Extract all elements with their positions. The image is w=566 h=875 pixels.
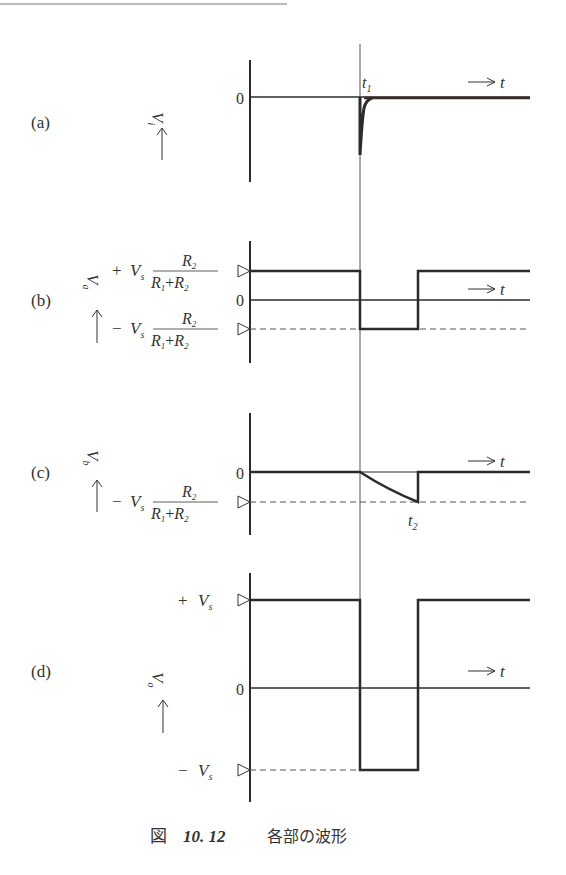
svg-text:Vi: Vi — [146, 112, 167, 125]
level-marker-icon — [238, 496, 250, 508]
svg-text:−: − — [112, 492, 122, 511]
panel-b-time-arrow: t — [468, 280, 506, 299]
svg-text:Vs: Vs — [130, 319, 144, 340]
panel-b-neg-level-label: − Vs R2 R1+R2 — [112, 310, 250, 351]
svg-text:R2: R2 — [181, 252, 197, 271]
svg-text:+: + — [178, 591, 188, 610]
panel-b: (b) Va + Vs R2 R1+R2 0 − Vs R2 R1+R2 — [31, 241, 530, 363]
svg-text:Va: Va — [81, 274, 102, 289]
panel-a-time-arrow: t — [468, 73, 506, 92]
svg-text:t: t — [500, 662, 506, 681]
level-marker-icon — [238, 764, 250, 776]
svg-text:Vs: Vs — [198, 761, 212, 782]
level-marker-icon — [238, 594, 250, 606]
panel-d-time-arrow: t — [468, 662, 506, 681]
svg-text:t: t — [500, 73, 506, 92]
panel-a-pulse — [360, 97, 372, 155]
level-marker-icon — [238, 323, 250, 335]
svg-text:図: 図 — [150, 826, 167, 846]
waveform-figure: (a) Vi 0 t1 t (b) Va + Vs R2 — [0, 0, 566, 875]
panel-a-ylabel: Vi — [146, 112, 167, 160]
panel-c-label: (c) — [31, 463, 50, 482]
panel-d-neg-level-label: − Vs — [178, 761, 250, 782]
panel-d-pos-level-label: + Vs — [178, 591, 250, 612]
panel-d-waveform — [250, 600, 530, 770]
svg-text:Vo: Vo — [146, 672, 167, 687]
svg-text:R1+R2: R1+R2 — [150, 505, 189, 524]
svg-text:Vs: Vs — [130, 261, 144, 282]
svg-text:Vs: Vs — [198, 591, 212, 612]
svg-text:t: t — [500, 280, 506, 299]
svg-text:Vb: Vb — [81, 450, 102, 465]
svg-text:R1+R2: R1+R2 — [150, 332, 189, 351]
t1-marker-label: t1 — [362, 74, 371, 94]
level-marker-icon — [238, 265, 250, 277]
panel-d-ylabel: Vo — [146, 672, 168, 733]
panel-c-ylabel: Vb — [81, 450, 102, 512]
svg-text:Vs: Vs — [130, 492, 144, 513]
svg-text:−: − — [112, 319, 122, 338]
panel-d-zero-label: 0 — [236, 681, 244, 698]
panel-c-neg-level-label: − Vs R2 R1+R2 — [112, 483, 250, 524]
svg-text:R2: R2 — [181, 483, 197, 502]
svg-text:t: t — [500, 452, 506, 471]
panel-b-pos-level-label: + Vs R2 R1+R2 — [112, 252, 250, 293]
panel-a-label: (a) — [31, 113, 50, 132]
panel-c-waveform — [250, 472, 530, 502]
svg-text:+: + — [112, 261, 122, 280]
panel-c-zero-label: 0 — [236, 465, 244, 482]
panel-b-label: (b) — [31, 291, 51, 310]
figure-caption: 図 10. 12 各部の波形 — [150, 826, 347, 846]
t2-marker-label: t2 — [408, 512, 417, 532]
panel-d-label: (d) — [31, 662, 51, 681]
panel-d: (d) Vo + Vs 0 − Vs t — [31, 573, 530, 802]
panel-a: (a) Vi 0 t1 t — [31, 60, 530, 182]
panel-a-zero-label: 0 — [236, 90, 244, 107]
svg-text:−: − — [178, 761, 188, 780]
panel-b-ylabel: Va — [81, 274, 102, 343]
svg-text:各部の波形: 各部の波形 — [267, 827, 347, 846]
panel-c: (c) Vb 0 − Vs R2 R1+R2 t2 t — [31, 413, 530, 535]
panel-c-time-arrow: t — [468, 452, 506, 471]
svg-text:10. 12: 10. 12 — [183, 827, 226, 846]
svg-text:R2: R2 — [181, 310, 197, 329]
svg-text:R1+R2: R1+R2 — [150, 274, 189, 293]
panel-b-zero-label: 0 — [236, 292, 244, 309]
